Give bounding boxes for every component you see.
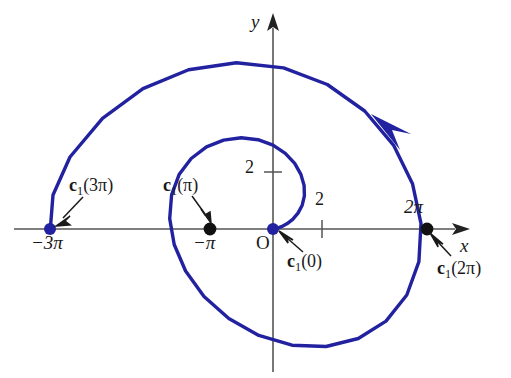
leader-arrows [56,196,451,256]
point-label-c1-0-symbol: c [287,251,295,271]
point-label-c1-2pi: c1(2π) [437,259,481,280]
origin-label: O [256,233,270,252]
x-axis [14,223,470,235]
x-tick-label-2pi: 2π [404,197,423,216]
spiral-curve [50,63,421,347]
point-label-c1-0-arg: (0) [301,251,322,271]
point-label-c1-3pi: c1(3π) [69,176,113,197]
point-label-c1-3pi-symbol: c [69,175,77,195]
x-tick-label-neg-pi: −π [193,233,215,252]
point-label-c1-pi: c1(π) [163,176,198,197]
y-axis-label: y [251,12,259,31]
point-label-c1-3pi-arg: (3π) [83,175,113,195]
point-label-c1-0: c1(0) [287,252,322,273]
point-label-c1-pi-arg: (π) [177,175,198,195]
x-tick-label-neg-3pi: −3π [31,233,63,252]
y-tick-label-2: 2 [245,158,254,176]
point-label-c1-2pi-arg: (2π) [451,258,481,278]
point-label-c1-pi-symbol: c [163,175,171,195]
x-tick-label-2: 2 [315,190,324,208]
x-axis-label: x [460,236,468,255]
point-label-c1-2pi-symbol: c [437,258,445,278]
spiral-curve-figure: y x O 2 2 −3π −π 2π c1(3π) c1(π) c1(0) c… [0,0,511,378]
